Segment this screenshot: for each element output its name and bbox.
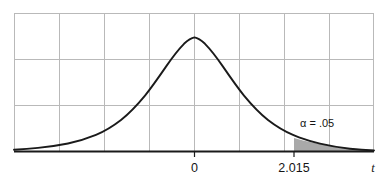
x-axis-label-t: t bbox=[371, 161, 375, 175]
alpha-annotation-label: α = .05 bbox=[300, 117, 334, 129]
x-tick-label-critical: 2.015 bbox=[278, 161, 309, 175]
t-distribution-chart: 0 2.015 t α = .05 bbox=[0, 0, 388, 177]
x-tick-label-zero: 0 bbox=[191, 161, 198, 175]
chart-canvas: 0 2.015 t α = .05 bbox=[0, 0, 388, 177]
